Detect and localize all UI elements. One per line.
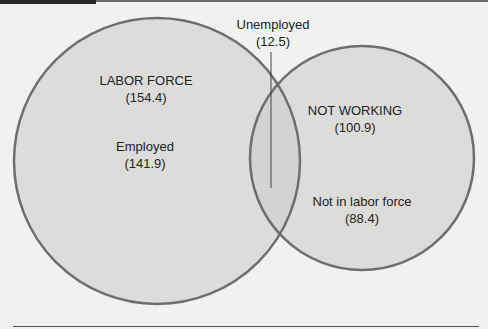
not-working-title: NOT WORKING (308, 102, 402, 119)
not-in-labor-force-value: (88.4) (313, 210, 412, 227)
not-in-labor-force-title: Not in labor force (313, 193, 412, 210)
labor-force-title: LABOR FORCE (99, 72, 192, 89)
unemployed-title: Unemployed (237, 16, 310, 33)
unemployed-label: Unemployed (12.5) (237, 16, 310, 50)
labor-force-value: (154.4) (99, 89, 192, 106)
employed-title: Employed (116, 138, 174, 155)
not-in-labor-force-label: Not in labor force (88.4) (313, 193, 412, 227)
unemployed-value: (12.5) (237, 33, 310, 50)
not-working-label: NOT WORKING (100.9) (308, 102, 402, 136)
not-working-value: (100.9) (308, 119, 402, 136)
labor-force-label: LABOR FORCE (154.4) (99, 72, 192, 106)
employed-label: Employed (141.9) (116, 138, 174, 172)
bottom-rule (13, 326, 479, 327)
employed-value: (141.9) (116, 155, 174, 172)
